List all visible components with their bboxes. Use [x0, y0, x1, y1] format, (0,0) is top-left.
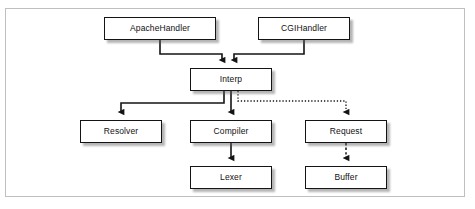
node-interp-label: Interp — [220, 75, 242, 84]
node-apachehandler: ApacheHandler — [104, 17, 216, 40]
node-cgihandler-label: CGIHandler — [281, 24, 327, 33]
edge-interp-resolver — [121, 91, 224, 112]
node-compiler-label: Compiler — [214, 127, 249, 136]
node-interp: Interp — [190, 68, 272, 91]
node-buffer-label: Buffer — [334, 173, 357, 182]
edge-interp-request — [238, 91, 346, 112]
node-compiler: Compiler — [190, 120, 272, 143]
edge-apachehandler-interp — [160, 40, 222, 60]
node-apachehandler-label: ApacheHandler — [130, 24, 190, 33]
node-buffer: Buffer — [305, 166, 387, 189]
node-resolver: Resolver — [80, 120, 162, 143]
node-lexer-label: Lexer — [220, 173, 242, 182]
diagram-figure: ApacheHandler CGIHandler Interp Resolver… — [0, 0, 475, 209]
edge-cgihandler-interp — [234, 40, 304, 60]
node-lexer: Lexer — [190, 166, 272, 189]
node-request: Request — [305, 120, 387, 143]
node-resolver-label: Resolver — [104, 127, 138, 136]
node-cgihandler: CGIHandler — [258, 17, 350, 40]
node-request-label: Request — [330, 127, 362, 136]
